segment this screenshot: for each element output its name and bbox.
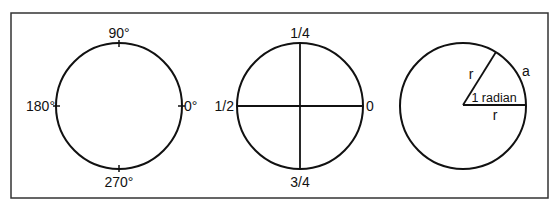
label-radius-lower: r	[493, 107, 498, 123]
label-arc: a	[522, 63, 530, 79]
label-half: 1/2	[215, 98, 235, 114]
label-270: 270°	[105, 174, 134, 190]
label-three-quarters: 3/4	[290, 174, 310, 190]
label-90: 90°	[108, 25, 129, 41]
label-angle: 1 radian	[471, 91, 516, 105]
label-zero: 0	[366, 98, 374, 114]
angle-measurement-diagram: 90° 180° 0° 270° 1/4 1/2 0 3/4 r a 1 rad…	[0, 0, 557, 208]
label-quarter: 1/4	[290, 25, 310, 41]
label-180: 180°	[26, 98, 55, 114]
label-0: 0°	[184, 98, 197, 114]
label-radius-upper: r	[469, 66, 474, 82]
